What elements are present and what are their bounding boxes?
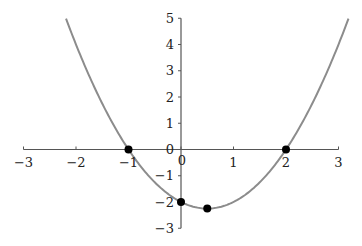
x-tick-label: −2 [66,155,85,170]
parabola-path [66,19,348,209]
y-tick-label: 1 [166,116,174,131]
y-tick-label: 2 [166,90,174,105]
y-tick-label: 4 [166,37,174,52]
x-tick-label: 0 [178,153,186,168]
data-points [125,146,291,213]
y-tick-label: 3 [166,63,174,78]
y-tick-label: −1 [155,168,174,183]
data-point [203,205,211,213]
y-tick-label: −2 [155,195,174,210]
data-point [125,146,133,154]
y-tick-label: −3 [155,221,174,236]
data-point [177,198,185,206]
y-tick-label: 5 [166,11,174,26]
x-tick-label: 1 [229,155,237,170]
data-point [282,146,290,154]
parabola-curve [66,19,348,209]
x-tick-label: 3 [334,155,342,170]
axes [24,18,339,228]
x-tick-label: −3 [14,155,33,170]
x-tick-label: 2 [282,155,290,170]
chart: −3−2−10123−3−2−1012345 [0,0,362,246]
x-tick-label: −1 [119,155,138,170]
y-tick-label: 0 [166,142,174,157]
